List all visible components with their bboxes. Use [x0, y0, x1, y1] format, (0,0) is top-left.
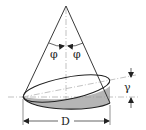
- diameter-label: D: [61, 115, 70, 128]
- phi-arc-right: [68, 43, 83, 46]
- phi-left-label: φ: [50, 48, 58, 61]
- phi-arc-left: [49, 43, 64, 46]
- cone-diagram: φ φ γ D: [0, 0, 146, 130]
- gamma-label: γ: [124, 81, 131, 94]
- inclined-section-axis: [23, 75, 136, 97]
- phi-right-label: φ: [73, 48, 81, 61]
